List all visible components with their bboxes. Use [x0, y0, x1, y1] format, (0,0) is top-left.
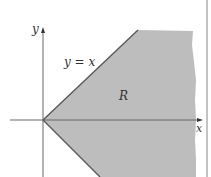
region-diagram: y y = x R x [0, 0, 211, 177]
y-axis-label: y [31, 22, 39, 36]
line-label: y = x [63, 55, 95, 69]
region-label: R [118, 89, 128, 103]
region-r-shading [43, 30, 196, 177]
x-axis-label: x [196, 122, 203, 135]
y-axis-arrow-icon [41, 27, 45, 33]
